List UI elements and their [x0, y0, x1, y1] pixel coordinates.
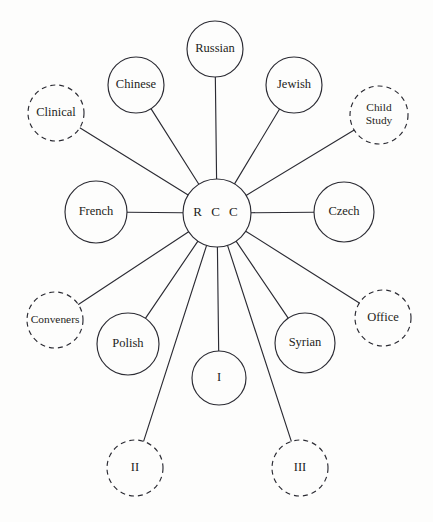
nodes-layer: ClinicalChineseRussianJewishChildStudyFr…	[27, 21, 411, 496]
node-label-three: III	[294, 460, 307, 474]
node-label-russian: Russian	[195, 41, 235, 55]
node-office[interactable]: Office	[355, 290, 411, 346]
node-czech[interactable]: Czech	[314, 182, 374, 242]
node-one[interactable]: I	[192, 351, 246, 405]
node-label-rcc: R C C	[193, 204, 241, 219]
node-label-clinical: Clinical	[36, 105, 76, 119]
node-french[interactable]: French	[65, 181, 127, 243]
node-label-chinese: Chinese	[116, 77, 157, 91]
node-jewish[interactable]: Jewish	[266, 57, 322, 113]
node-three[interactable]: III	[272, 440, 328, 496]
node-label-child-study: Study	[366, 114, 393, 126]
node-chinese[interactable]: Chinese	[108, 57, 164, 113]
node-russian[interactable]: Russian	[187, 21, 243, 77]
node-label-syrian: Syrian	[289, 335, 322, 349]
node-label-one: I	[217, 370, 221, 384]
edge-rcc-to-one	[217, 247, 218, 351]
edge-rcc-to-russian	[215, 77, 216, 179]
node-label-conveners: Conveners	[31, 313, 80, 325]
node-syrian[interactable]: Syrian	[275, 313, 335, 373]
node-label-two: II	[131, 460, 139, 474]
node-clinical[interactable]: Clinical	[28, 85, 84, 141]
node-label-polish: Polish	[112, 336, 144, 350]
diagram-canvas: ClinicalChineseRussianJewishChildStudyFr…	[0, 0, 433, 522]
hub-and-spoke-diagram: ClinicalChineseRussianJewishChildStudyFr…	[0, 0, 433, 522]
edge-rcc-to-jewish	[235, 109, 280, 184]
node-rcc[interactable]: R C C	[183, 179, 251, 247]
node-polish[interactable]: Polish	[97, 313, 159, 375]
edge-rcc-to-chinese	[151, 109, 199, 185]
node-conveners[interactable]: Conveners	[27, 292, 83, 348]
edge-rcc-to-polish	[145, 241, 197, 318]
node-two[interactable]: II	[107, 440, 163, 496]
node-label-jewish: Jewish	[277, 77, 312, 91]
node-label-office: Office	[367, 310, 399, 324]
node-label-czech: Czech	[328, 204, 360, 218]
node-label-french: French	[79, 204, 114, 218]
node-label-child-study: Child	[366, 101, 392, 113]
node-child-study[interactable]: ChildStudy	[350, 86, 408, 144]
